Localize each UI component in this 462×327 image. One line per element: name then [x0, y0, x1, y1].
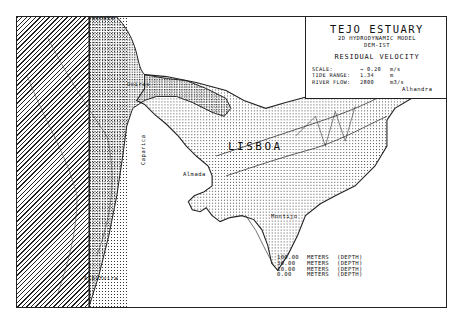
- place-label-almada: Almada: [183, 171, 206, 177]
- depth-legend: 100.00 METERS (DEPTH) 30.00 METERS (DEPT…: [277, 255, 363, 278]
- place-label-oeiras: Oeiras: [127, 81, 150, 87]
- map-title: TEJO ESTUARY: [306, 23, 447, 35]
- param-river-flow: RIVER FLOW: 2800 m3/s: [312, 79, 447, 85]
- place-label-caparica: Caparica: [140, 135, 146, 166]
- place-label-albufeira: Albufeira: [84, 275, 118, 281]
- map-frame: TEJO ESTUARY 2D HYDRODYNAMIC MODEL DEM-I…: [16, 16, 447, 308]
- estuary-water-body: [137, 73, 435, 271]
- plot-type: RESIDUAL VELOCITY: [306, 53, 447, 61]
- place-label-cascais: Cascais: [88, 15, 115, 21]
- place-label-montijo: Montijo: [271, 213, 298, 219]
- place-label-lisboa: LISBOA: [228, 140, 283, 153]
- model-institution: DEM-IST: [306, 42, 447, 49]
- model-name: 2D HYDRODYNAMIC MODEL: [306, 35, 447, 42]
- place-label-alhandra: Alhandra: [402, 86, 433, 92]
- parameters-list: SCALE: → 0.20 m/s TIDE RANGE: 1.34 m RIV…: [306, 66, 447, 85]
- legend-row: 0.00 METERS (DEPTH): [277, 272, 363, 278]
